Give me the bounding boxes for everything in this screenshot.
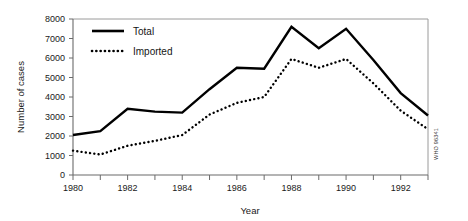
chart-figure: 010002000300040005000600070008000 198019… — [0, 0, 468, 221]
chart-legend: Total Imported — [92, 26, 172, 57]
frame-top-right-border — [73, 19, 428, 175]
x-tick-label: 1986 — [227, 183, 247, 193]
y-tick-label: 5000 — [45, 73, 65, 83]
source-credit-label: WHO 96341 — [433, 128, 439, 160]
x-tick-label: 1980 — [63, 183, 83, 193]
x-tick-label: 1984 — [172, 183, 192, 193]
plot-frame — [73, 19, 428, 175]
y-axis: 010002000300040005000600070008000 — [45, 14, 73, 180]
x-tick-label: 1990 — [336, 183, 356, 193]
x-tick-label: 1982 — [118, 183, 138, 193]
y-tick-label: 4000 — [45, 92, 65, 102]
series-line-imported — [73, 59, 428, 155]
line-chart: 010002000300040005000600070008000 198019… — [0, 0, 468, 221]
y-tick-label: 2000 — [45, 131, 65, 141]
y-axis-title: Number of cases — [15, 61, 26, 133]
y-tick-label: 7000 — [45, 34, 65, 44]
y-tick-label: 8000 — [45, 14, 65, 24]
y-tick-label: 1000 — [45, 151, 65, 161]
y-tick-label: 3000 — [45, 112, 65, 122]
x-tick-label: 1988 — [281, 183, 301, 193]
x-tick-label: 1992 — [391, 183, 411, 193]
y-tick-label: 6000 — [45, 53, 65, 63]
legend-label-imported: Imported — [133, 46, 172, 57]
x-axis: 1980198219841986198819901992 — [63, 175, 428, 193]
data-series-group — [73, 27, 428, 155]
y-tick-label: 0 — [60, 170, 65, 180]
x-axis-title: Year — [240, 205, 259, 216]
series-line-total — [73, 27, 428, 135]
legend-label-total: Total — [133, 26, 154, 37]
